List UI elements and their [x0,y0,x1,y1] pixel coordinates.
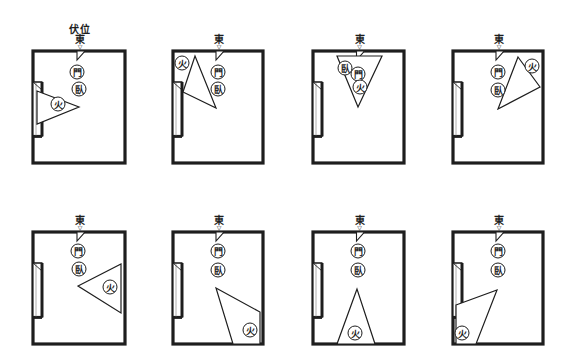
arrow-down-icon: ▽ [357,223,362,233]
arrow-down-icon: ▽ [217,223,222,233]
stove-marker: 火 [353,80,368,95]
bed-marker: 臥 [338,61,353,76]
entrance-door-icon [77,51,85,60]
title-label: 伏位 [69,21,91,36]
arrow-down-icon: ▽ [78,42,83,52]
door-marker: 門 [211,244,226,259]
entrance-door-icon [357,232,365,241]
door-marker: 門 [491,65,506,80]
stove-marker: 火 [455,326,470,341]
entrance-door-icon [216,232,224,241]
arrow-down-icon: ▽ [497,223,502,233]
door-marker: 門 [351,244,366,259]
bed-marker: 臥 [72,262,87,277]
stove-marker: 火 [525,59,540,74]
arrow-down-icon: ▽ [357,42,362,52]
entrance-door-icon [77,232,85,241]
bed-marker: 臥 [72,82,87,97]
entrance-door-icon [496,232,504,241]
stove-marker: 火 [243,323,258,338]
bed-marker: 臥 [351,263,366,278]
door-marker: 門 [491,244,506,259]
arrow-down-icon: ▽ [217,42,222,52]
entrance-door-icon [216,51,224,60]
stove-marker: 火 [103,280,118,295]
bed-marker: 臥 [491,263,506,278]
diagram-lines [0,0,570,364]
bed-marker: 臥 [211,263,226,278]
entrance-door-icon [496,51,504,60]
door-marker: 門 [211,65,226,80]
bed-marker: 臥 [211,82,226,97]
stove-marker: 火 [175,56,190,71]
arrow-down-icon: ▽ [497,42,502,52]
stove-marker: 火 [51,97,66,112]
bed-marker: 臥 [491,83,506,98]
arrow-down-icon: ▽ [78,223,83,233]
door-marker: 門 [71,244,86,259]
door-marker: 門 [70,65,85,80]
stove-marker: 火 [348,326,363,341]
